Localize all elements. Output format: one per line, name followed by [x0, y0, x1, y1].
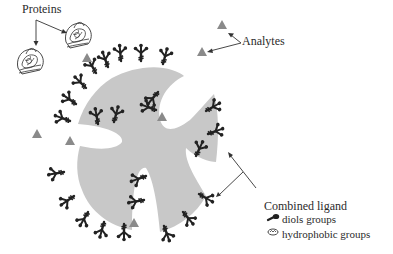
combined-ligand-label: Combined ligand: [264, 199, 347, 214]
analytes-label: Analytes: [242, 34, 285, 49]
analytes-arrows: [207, 33, 241, 53]
proteins-label: Proteins: [22, 2, 61, 17]
hydrophobic-groups-label: hydrophobic groups: [282, 228, 370, 240]
diols-group-icon: [268, 214, 279, 220]
proteins: [17, 22, 91, 74]
combined-ligand-arrows: [216, 152, 256, 197]
hydrophobic-group-icon: [268, 229, 278, 235]
diols-groups-label: diols groups: [282, 213, 336, 225]
proteins-arrows: [34, 20, 68, 46]
porous-bead: [77, 67, 218, 232]
